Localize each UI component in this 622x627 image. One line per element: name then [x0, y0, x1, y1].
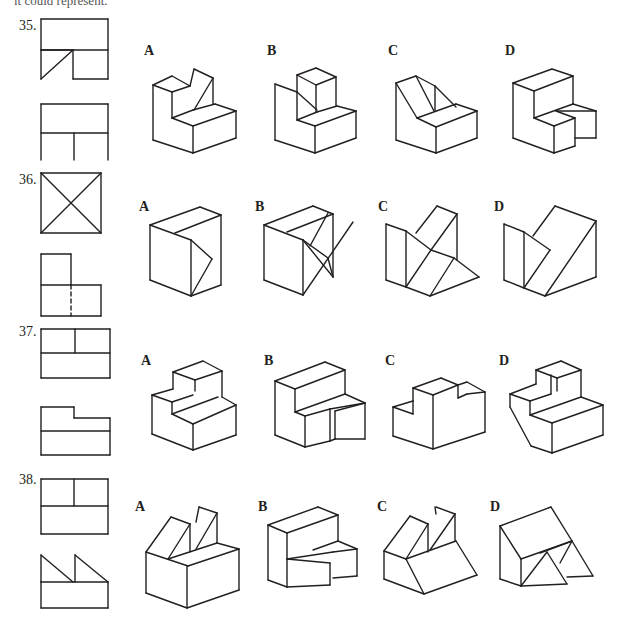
figure-p38-B	[268, 507, 357, 587]
figure-p36-C	[386, 206, 479, 296]
figure-p38-C	[384, 507, 477, 594]
technical-drawings	[0, 0, 622, 627]
figure-p37-D	[510, 361, 603, 453]
figure-p38-A	[146, 507, 239, 608]
figure-p37-B	[275, 362, 365, 447]
figure-p38-D	[500, 507, 593, 586]
figure-p35-B	[275, 68, 356, 153]
figure-p35-views	[41, 19, 108, 160]
figure-p36-A	[150, 207, 221, 296]
figure-p37-A	[152, 361, 236, 450]
figure-p36-D	[504, 206, 596, 296]
figure-p35-D	[513, 69, 596, 153]
figure-p38-views	[41, 479, 108, 608]
figure-p35-C	[396, 76, 477, 153]
figure-p37-C	[393, 378, 485, 449]
figure-p36-B	[264, 206, 353, 295]
figure-p37-views	[41, 329, 110, 455]
figure-p35-A	[153, 69, 236, 153]
